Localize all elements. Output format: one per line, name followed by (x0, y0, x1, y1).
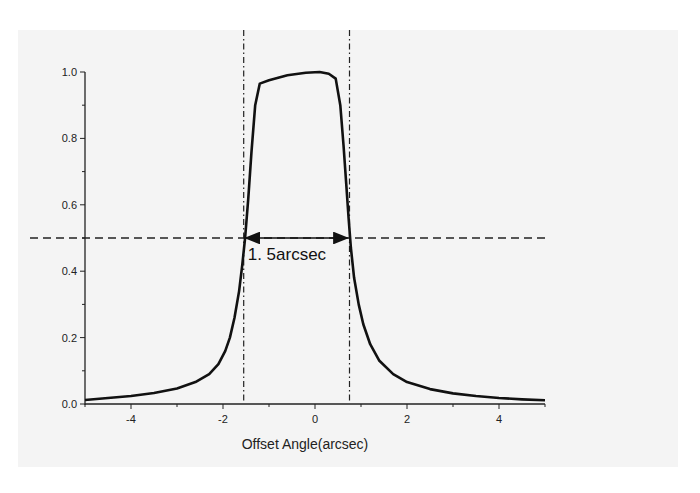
response-curve (85, 72, 545, 400)
y-tick-label: 0.0 (62, 398, 77, 410)
line-chart: 0.00.20.40.60.81.0-4-2024 1. 5arcsec Off… (0, 0, 700, 493)
x-tick-label: -4 (126, 413, 136, 425)
y-tick-label: 0.8 (62, 132, 77, 144)
x-tick-label: 2 (404, 413, 410, 425)
y-tick-label: 0.2 (62, 332, 77, 344)
y-tick-label: 0.4 (62, 265, 77, 277)
y-tick-label: 0.6 (62, 199, 77, 211)
reference-lines (30, 30, 545, 402)
fwhm-label: 1. 5arcsec (248, 245, 327, 264)
fwhm-annotation: 1. 5arcsec (246, 238, 348, 264)
x-tick-label: -2 (218, 413, 228, 425)
x-tick-label: 4 (496, 413, 502, 425)
x-axis-title: Offset Angle(arcsec) (242, 436, 369, 452)
y-tick-label: 1.0 (62, 66, 77, 78)
data-curve (85, 72, 545, 400)
x-tick-label: 0 (312, 413, 318, 425)
